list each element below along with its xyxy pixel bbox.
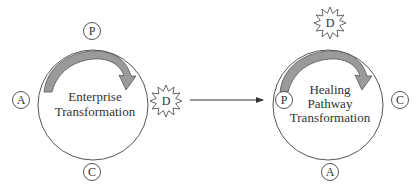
disruption-burst-icon: D: [150, 85, 182, 117]
enterprise-transformation-group: Enterprise Transformation P A C D: [13, 23, 183, 181]
transformation-diagram: Enterprise Transformation P A C D Healin…: [0, 0, 419, 195]
healing-pathway-group: Healing Pathway Transformation P C A D: [273, 7, 409, 181]
svg-text:C: C: [88, 165, 96, 179]
enterprise-title-line-1: Enterprise: [68, 89, 122, 104]
svg-text:A: A: [17, 93, 26, 107]
svg-text:D: D: [162, 94, 171, 108]
svg-text:P: P: [281, 93, 288, 107]
node-a-left: A: [13, 92, 30, 109]
node-p-top: P: [84, 23, 101, 40]
curved-arrow-icon: [44, 51, 136, 92]
healing-title-line-2: Pathway: [308, 96, 353, 111]
node-p-left: P: [276, 92, 293, 109]
healing-title-line-3: Transformation: [290, 110, 371, 125]
disruption-burst-icon: D: [314, 7, 346, 39]
enterprise-title-line-2: Transformation: [55, 104, 136, 119]
healing-title-line-1: Healing: [309, 82, 351, 97]
node-c-bottom: C: [84, 164, 101, 181]
node-a-bottom: A: [322, 164, 339, 181]
node-c-right: C: [392, 92, 409, 109]
svg-text:D: D: [326, 16, 335, 30]
svg-text:P: P: [89, 24, 96, 38]
svg-text:A: A: [326, 165, 335, 179]
svg-text:C: C: [396, 93, 404, 107]
